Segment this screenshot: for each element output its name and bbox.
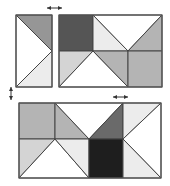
top-horizontal-double-arrow-icon	[47, 6, 62, 10]
tangram-diagram	[0, 0, 170, 186]
bottom-horizontal-double-arrow-icon	[113, 95, 128, 99]
top-right-piece-7	[128, 51, 162, 87]
left-vertical-double-arrow-icon	[9, 87, 13, 100]
top-right-block	[59, 15, 162, 87]
bottom-piece-9	[89, 139, 123, 178]
bottom-block	[19, 103, 161, 178]
bottom-piece-0	[19, 103, 55, 139]
top-right-piece-0	[59, 15, 93, 51]
top-left-strip	[16, 15, 52, 87]
